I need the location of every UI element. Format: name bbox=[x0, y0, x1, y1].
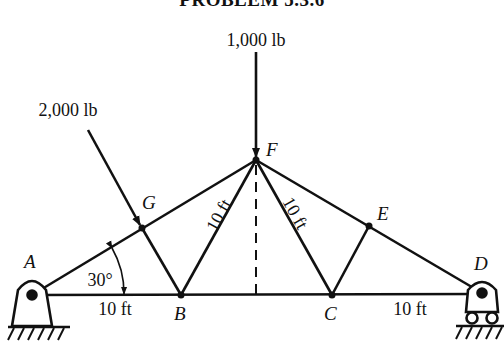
node-label-B: B bbox=[174, 303, 186, 324]
dim-label-CD: 10 ft bbox=[393, 299, 427, 319]
angle-arc bbox=[112, 248, 124, 294]
node-label-C: C bbox=[324, 303, 337, 324]
angle-label: 30° bbox=[87, 270, 112, 290]
bottom-chord bbox=[32, 294, 482, 295]
joint-E bbox=[366, 223, 373, 230]
load-arrow-inclined bbox=[88, 130, 140, 225]
joint-B bbox=[178, 292, 185, 299]
dim-label-BF: 10 ft bbox=[202, 196, 236, 235]
joint-F bbox=[253, 157, 260, 164]
joint-C bbox=[329, 292, 336, 299]
joints bbox=[139, 157, 373, 299]
truss-diagram: PROBLEM 5.3.6 bbox=[0, 0, 504, 359]
truss-drawing: 1,000 lb 2,000 lb A B C D E F G 10 ft 10… bbox=[0, 0, 504, 359]
node-label-A: A bbox=[22, 251, 36, 272]
dim-label-AB: 10 ft bbox=[98, 299, 132, 319]
pin-support-A bbox=[8, 281, 70, 340]
joint-G bbox=[139, 225, 146, 232]
node-label-G: G bbox=[142, 192, 156, 213]
problem-title: PROBLEM 5.3.6 bbox=[0, 0, 504, 11]
node-label-F: F bbox=[265, 139, 278, 160]
load-label-vertical: 1,000 lb bbox=[226, 30, 285, 50]
dim-label-CF: 10 ft bbox=[278, 194, 312, 233]
node-label-D: D bbox=[473, 253, 488, 274]
roller-support-D bbox=[456, 282, 504, 339]
node-label-E: E bbox=[376, 203, 389, 224]
load-label-inclined: 2,000 lb bbox=[38, 100, 97, 120]
